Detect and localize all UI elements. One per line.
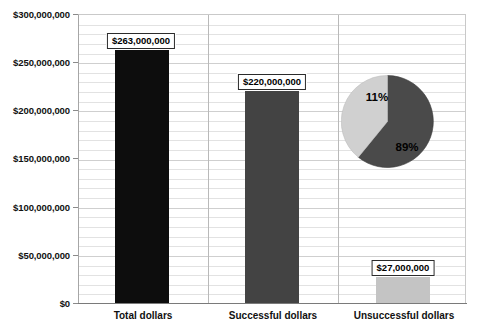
y-tick-label-250m: $250,000,000 (13, 57, 70, 68)
data-label-unsuccessful-dollars: $27,000,000 (372, 260, 435, 276)
pie-label-11-percent: 11% (366, 91, 388, 103)
category-divider-1 (208, 15, 209, 303)
category-label-unsuccessful-dollars: Unsuccessful dollars (354, 310, 455, 321)
y-axis: $300,000,000 $250,000,000 $200,000,000 $… (0, 0, 74, 330)
y-tick-label-300m: $300,000,000 (13, 9, 70, 20)
bar-unsuccessful-dollars[interactable] (376, 277, 430, 303)
y-tick-label-0: $0 (60, 298, 70, 309)
y-tick-label-100m: $100,000,000 (13, 202, 70, 213)
category-label-successful-dollars: Successful dollars (229, 310, 317, 321)
bar-total-dollars[interactable] (115, 50, 169, 303)
category-divider-2 (338, 15, 339, 303)
y-tick-label-50m: $50,000,000 (18, 250, 70, 261)
y-tick-label-200m: $200,000,000 (13, 105, 70, 116)
pie-svg (341, 75, 434, 168)
gridline-290m (79, 25, 465, 26)
pie-chart-overlay[interactable]: 11% 89% (341, 75, 434, 168)
x-axis-baseline (78, 303, 467, 304)
pie-label-89-percent: 89% (395, 141, 418, 153)
bar-successful-dollars[interactable] (245, 91, 299, 303)
y-tick-label-150m: $150,000,000 (13, 153, 70, 164)
category-label-total-dollars: Total dollars (114, 310, 173, 321)
data-label-successful-dollars: $220,000,000 (238, 74, 306, 90)
data-label-total-dollars: $263,000,000 (107, 33, 175, 49)
bar-chart-with-pie-overlay: $300,000,000 $250,000,000 $200,000,000 $… (0, 0, 478, 330)
